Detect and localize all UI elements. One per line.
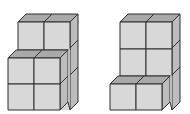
right-front-cube-front [110, 84, 136, 110]
left-back-cube-front [44, 22, 70, 50]
right-front-cube-front [136, 84, 162, 110]
right-back-cube-front [120, 49, 146, 76]
left-front-cube-front [8, 84, 34, 110]
right-back-cube-front [146, 49, 172, 76]
right-back-cube-front [120, 22, 146, 49]
right-block-structure [110, 14, 180, 110]
right-back-side-face [172, 14, 180, 110]
left-front-cube-front [8, 58, 34, 84]
right-back-cube-front [146, 22, 172, 49]
cube-diagram [0, 0, 190, 114]
left-front-cube-front [34, 58, 60, 84]
left-front-cube-front [34, 84, 60, 110]
left-back-cube-front [18, 22, 44, 50]
left-block-structure [8, 14, 78, 110]
left-back-side-face [70, 14, 78, 110]
